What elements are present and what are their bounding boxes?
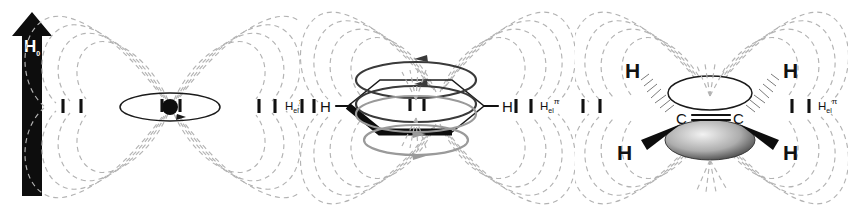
atom-label-h-upper-right: H — [783, 59, 798, 82]
atom-label-h-upper-left: H — [625, 59, 640, 82]
svg-text:Helπ: Helπ — [540, 97, 560, 114]
panel-point-dipole: H0 — [0, 0, 300, 212]
atom-label-c-right: C — [733, 110, 744, 127]
panel-c-caption: Helπ — [818, 97, 838, 114]
atom-label-h-lower-left: H — [617, 141, 632, 164]
probe-ticks-right — [516, 99, 531, 113]
probe-ticks-center — [410, 99, 424, 111]
svg-text:Helπ: Helπ — [818, 97, 838, 114]
dipole-point-marker — [162, 99, 178, 115]
atom-label-h-left: H — [320, 98, 331, 115]
atom-label-c-left: C — [676, 110, 687, 127]
panel-b-graphic: H H Helπ — [300, 0, 575, 212]
atom-label-h-right: H — [502, 98, 513, 115]
panel-b-caption: Helπ — [540, 97, 560, 114]
probe-ticks-left — [63, 99, 81, 113]
panel-ethene: C C H H H H — [575, 0, 848, 212]
probe-ticks-left — [302, 99, 314, 113]
probe-ticks-right — [792, 99, 809, 113]
benzene-field-lines — [300, 12, 575, 204]
probe-ticks-left — [583, 99, 600, 113]
panel-c-graphic: C C H H H H — [575, 0, 848, 212]
carbon-carbon-double-bond — [692, 115, 730, 120]
atom-label-h-lower-right: H — [783, 141, 798, 164]
panel-a-graphic: H0 — [0, 0, 300, 212]
figure-canvas: H0 — [0, 0, 848, 212]
panel-benzene-ring-current: H H Helπ — [300, 0, 575, 212]
